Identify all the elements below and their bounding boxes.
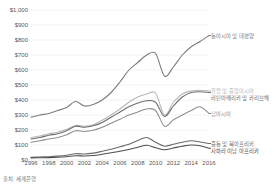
- x-axis-tick-label: 1996: [24, 160, 37, 167]
- y-axis-tick-label: $100: [15, 142, 28, 148]
- series-line: [31, 137, 209, 157]
- y-axis: $1,000$900$800$700$600$500$400$300$200$1…: [0, 0, 30, 160]
- source-note: 출처: 세계은행: [3, 176, 36, 183]
- y-axis-tick-label: $800: [15, 37, 28, 43]
- y-axis-tick-label: $400: [15, 97, 28, 103]
- legend: 동아시아 및 태평양유럽 및 중앙아시아라틴아메리카 및 카리브해남아시아중동 …: [211, 0, 278, 175]
- y-axis-tick-label: $1,000: [10, 7, 28, 13]
- y-axis-tick-label: $500: [15, 82, 28, 88]
- legend-label-3: 남아시아: [211, 111, 231, 117]
- x-axis-tick-label: 2012: [167, 160, 180, 167]
- x-axis-tick-label: 1998: [42, 160, 55, 167]
- y-axis-tick-label: $600: [15, 67, 28, 73]
- chart-container: $1,000$900$800$700$600$500$400$300$200$1…: [0, 0, 278, 189]
- x-axis-tick-label: 2000: [60, 160, 73, 167]
- legend-label-1: 유럽 및 중앙아시아: [211, 88, 254, 94]
- y-axis-tick-label: $300: [15, 112, 28, 118]
- legend-label-2: 라틴아메리카 및 카리브해: [211, 95, 269, 101]
- x-axis-tick-label: 2010: [149, 160, 162, 167]
- legend-label-5: 사하라 이남 아프리카: [211, 148, 259, 154]
- series-line: [31, 36, 209, 118]
- legend-label-4: 중동 및 북아프리카: [211, 141, 254, 147]
- y-axis-tick-label: $200: [15, 127, 28, 133]
- x-axis-tick-label: 2014: [185, 160, 198, 167]
- x-axis-tick-label: 2006: [113, 160, 126, 167]
- line-chart-svg: [31, 10, 209, 160]
- x-axis-tick-label: 2008: [131, 160, 144, 167]
- y-axis-tick-label: $900: [15, 22, 28, 28]
- legend-label-0: 동아시아 및 태평양: [211, 33, 254, 39]
- y-axis-tick-label: $700: [15, 52, 28, 58]
- x-axis-tick-label: 2004: [96, 160, 109, 167]
- plot-area: [31, 10, 209, 160]
- x-axis-tick-label: 2002: [78, 160, 91, 167]
